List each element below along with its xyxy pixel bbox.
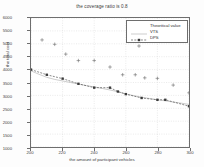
x-tick-mark [190, 148, 191, 151]
data-point-marker [143, 76, 147, 80]
data-point-marker [164, 99, 166, 101]
data-point-marker [134, 73, 138, 77]
x-tick-mark [94, 148, 95, 151]
y-tick-mark [27, 30, 30, 31]
y-tick-label: 3000 [0, 93, 12, 98]
chart-figure: the coverage ratio is 0.8 10001500200025… [0, 0, 204, 167]
data-point-marker [187, 91, 189, 95]
data-point-marker [46, 74, 48, 76]
data-point-marker [188, 105, 189, 107]
data-point-marker [121, 73, 125, 77]
y-tick-mark [27, 17, 30, 18]
y-tick-mark [27, 109, 30, 110]
data-point-marker [61, 77, 63, 79]
legend-item-dps[interactable]: DPS [129, 35, 185, 41]
data-point-marker [64, 52, 68, 56]
y-tick-mark [27, 96, 30, 97]
y-tick-label: 2000 [0, 119, 12, 124]
y-tick-label: 2500 [0, 106, 12, 111]
y-tick-mark [27, 83, 30, 84]
chart-legend[interactable]: Theoritical valueVTSDPS [126, 20, 188, 43]
data-point-marker [77, 59, 81, 63]
y-tick-label: 6000 [0, 15, 12, 20]
y-tick-mark [27, 135, 30, 136]
legend-label: VTS [149, 29, 158, 34]
legend-label: Theoritical value [149, 23, 181, 28]
legend-label: DPS [149, 35, 159, 40]
x-tick-mark [126, 148, 127, 151]
data-point-marker [171, 83, 175, 87]
y-tick-label: 1500 [0, 132, 12, 137]
data-point-marker [93, 86, 95, 88]
data-point-marker [77, 83, 79, 85]
y-tick-label: 1000 [0, 146, 12, 151]
data-point-marker [156, 77, 160, 81]
data-point-marker [109, 86, 111, 88]
data-point-marker [40, 38, 44, 42]
series-lines [31, 38, 189, 107]
x-tick-mark [30, 148, 31, 151]
y-tick-mark [27, 43, 30, 44]
y-tick-mark [27, 69, 30, 70]
data-point-marker [92, 59, 96, 63]
data-point-marker [117, 90, 119, 92]
y-tick-mark [27, 56, 30, 57]
x-tick-mark [62, 148, 63, 151]
data-point-marker [108, 65, 112, 69]
x-tick-mark [158, 148, 159, 151]
y-axis-label: the total cost [5, 24, 10, 86]
chart-title: the coverage ratio is 0.8 [0, 4, 204, 9]
data-point-marker [31, 68, 32, 70]
data-point-marker [53, 43, 57, 47]
data-point-marker [140, 97, 142, 99]
legend-marker-icon [129, 35, 149, 41]
y-tick-mark [27, 122, 30, 123]
x-axis-label: the amount of participant vehicles [0, 157, 204, 162]
data-point-marker [125, 93, 127, 95]
data-point-marker [156, 99, 158, 101]
